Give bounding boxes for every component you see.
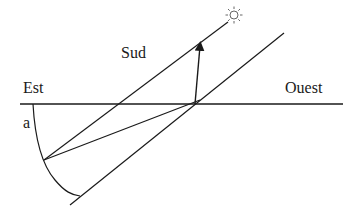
label-west: Ouest (285, 80, 322, 96)
sun-icon (226, 7, 243, 24)
solar-geometry-diagram (0, 0, 361, 215)
label-angle-a: a (23, 115, 30, 131)
normal-arrow (195, 46, 200, 104)
label-south: Sud (121, 45, 146, 61)
sun-ray-line (44, 22, 228, 160)
label-east: Est (23, 80, 43, 96)
parallel-line (70, 33, 284, 205)
middle-line (44, 100, 200, 160)
